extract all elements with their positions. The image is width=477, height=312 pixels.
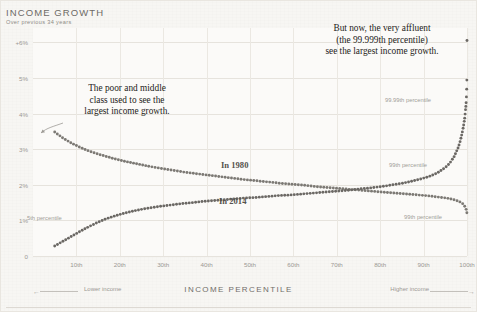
series-point	[455, 149, 458, 152]
series-point	[258, 196, 261, 199]
series-point	[246, 178, 249, 181]
series-point	[265, 180, 268, 183]
series-point	[135, 162, 138, 165]
series-point	[405, 193, 408, 196]
series-point	[107, 217, 110, 220]
series-point	[463, 120, 466, 123]
series-point	[143, 207, 146, 210]
series-point	[401, 182, 404, 185]
series-point	[334, 190, 337, 193]
x-axis-title: INCOME PERCENTILE	[184, 285, 292, 294]
series-point	[185, 202, 188, 205]
series-point	[286, 194, 289, 197]
series-point	[437, 171, 440, 174]
series-point	[271, 195, 274, 198]
series-point	[166, 168, 169, 171]
series-point	[310, 185, 313, 188]
series-point	[128, 211, 131, 214]
series-point	[189, 171, 192, 174]
series-point	[207, 200, 210, 203]
series-point	[318, 191, 321, 194]
percentile-label-99-99th: 99.99th percentile	[385, 97, 431, 103]
series-point	[316, 185, 319, 188]
series-point	[465, 208, 468, 211]
series-point	[58, 134, 61, 137]
series-point	[134, 209, 137, 212]
percentile-label-5th: 5th percentile	[27, 215, 62, 221]
series-point	[459, 137, 462, 140]
series-point	[337, 190, 340, 193]
series-point	[425, 176, 428, 179]
series-point	[376, 190, 379, 193]
series-point	[453, 155, 456, 158]
series-point	[392, 192, 395, 195]
series-point	[64, 138, 67, 141]
series-point	[319, 186, 322, 189]
y-tick-label: 3%	[19, 146, 28, 153]
series-point	[411, 193, 414, 196]
series-point	[252, 179, 255, 182]
series-point	[201, 173, 204, 176]
series-point	[120, 159, 123, 162]
series-point	[101, 219, 104, 222]
series-point	[99, 153, 102, 156]
series-point	[360, 187, 363, 190]
series-point	[447, 163, 450, 166]
series-point	[122, 212, 125, 215]
series-point	[449, 161, 452, 164]
series-point	[404, 181, 407, 184]
series-point	[233, 177, 236, 180]
series-point	[255, 196, 258, 199]
series-point	[369, 186, 372, 189]
series-point	[328, 190, 331, 193]
page-subtitle: Over previous 34 years	[6, 19, 72, 25]
series-point	[465, 95, 468, 98]
series-point	[84, 148, 87, 151]
series-point	[465, 88, 468, 91]
series-point	[105, 155, 108, 158]
series-point	[463, 205, 466, 208]
series-point	[306, 192, 309, 195]
series-point	[154, 166, 157, 169]
higher-income-label: Higher income	[390, 286, 429, 292]
series-point	[446, 197, 449, 200]
series-point	[86, 226, 89, 229]
series-label-1980: In 1980	[221, 160, 248, 170]
series-point	[457, 147, 460, 150]
rule-left	[40, 291, 78, 292]
series-point	[415, 193, 418, 196]
series-point	[291, 183, 294, 186]
series-point	[83, 227, 86, 230]
series-point	[366, 187, 369, 190]
series-point	[208, 174, 211, 177]
series-point	[363, 187, 366, 190]
series-point	[141, 164, 144, 167]
series-point	[201, 200, 204, 203]
series-point	[464, 108, 467, 111]
series-point	[299, 193, 302, 196]
series-point	[297, 183, 300, 186]
series-point	[116, 214, 119, 217]
series-point	[275, 181, 278, 184]
series-point	[67, 140, 70, 143]
series-point	[144, 164, 147, 167]
rule-right	[430, 291, 468, 292]
series-point	[129, 161, 132, 164]
series-point	[96, 152, 99, 155]
series-point	[388, 184, 391, 187]
series-point	[329, 186, 332, 189]
series-point	[402, 192, 405, 195]
series-point	[117, 158, 120, 161]
series-point	[325, 191, 328, 194]
series-point	[179, 170, 182, 173]
series-point	[391, 183, 394, 186]
x-tick-label: 10th	[70, 261, 82, 268]
series-point	[95, 222, 98, 225]
series-point	[53, 131, 56, 134]
series-point	[287, 183, 290, 186]
series-point	[156, 205, 159, 208]
series-point	[278, 182, 281, 185]
series-point	[93, 151, 96, 154]
series-point	[419, 178, 422, 181]
series-point	[137, 209, 140, 212]
